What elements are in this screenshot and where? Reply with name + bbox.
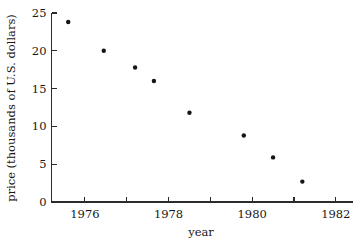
data-point: [102, 49, 106, 53]
x-tick-label: 1978: [154, 207, 183, 221]
data-point: [66, 20, 70, 24]
data-point: [133, 65, 137, 69]
data-point: [152, 79, 156, 83]
y-tick-label: 0: [39, 195, 46, 209]
data-point: [242, 133, 246, 137]
y-axis-ticks: 0510152025: [32, 6, 57, 209]
y-tick-label: 15: [32, 82, 47, 96]
y-axis: 0510152025 price (thousands of U.S. doll…: [4, 6, 57, 209]
data-point: [271, 155, 275, 159]
x-tick-label: 1980: [238, 207, 267, 221]
data-point: [187, 111, 191, 115]
y-tick-label: 20: [32, 44, 47, 58]
chart-canvas: 0510152025 price (thousands of U.S. doll…: [0, 0, 357, 242]
y-tick-label: 25: [32, 6, 47, 20]
x-tick-label: 1982: [321, 207, 350, 221]
x-axis-title: year: [187, 225, 214, 239]
x-axis-ticks: 1976197819801982: [70, 197, 350, 221]
x-axis: 1976197819801982 year: [51, 197, 353, 239]
scatter-plot-figure: 0510152025 price (thousands of U.S. doll…: [0, 0, 357, 242]
x-tick-label: 1976: [70, 207, 99, 221]
data-point: [300, 179, 304, 183]
data-point-series: [66, 20, 305, 184]
y-tick-label: 5: [39, 157, 46, 171]
y-tick-label: 10: [32, 119, 47, 133]
y-axis-title: price (thousands of U.S. dollars): [4, 14, 18, 202]
